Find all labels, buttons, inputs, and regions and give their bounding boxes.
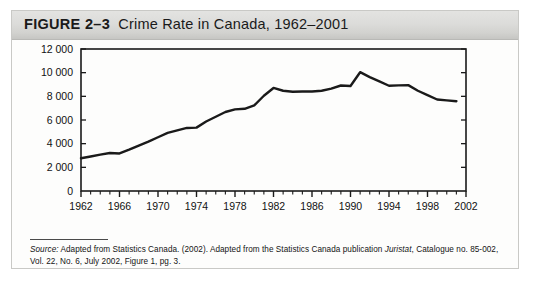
- x-axis-tick-marks: [81, 191, 466, 197]
- svg-text:4 000: 4 000: [47, 137, 73, 149]
- source-body-part1: Adapted from Statistics Canada. (2002). …: [59, 245, 385, 254]
- svg-text:6 000: 6 000: [47, 114, 73, 126]
- crime-rate-series-line: [81, 72, 456, 158]
- source-label: Source:: [30, 245, 59, 254]
- chart-area: 02 0004 0006 0008 00010 00012 000 196219…: [12, 40, 518, 236]
- figure-number-label: FIGURE 2–3: [24, 16, 110, 32]
- svg-text:2002: 2002: [454, 200, 478, 212]
- crime-rate-line-chart: 02 0004 0006 0008 00010 00012 000 196219…: [12, 40, 520, 236]
- figure-header-band: FIGURE 2–3 Crime Rate in Canada, 1962–20…: [12, 11, 518, 40]
- svg-text:1986: 1986: [300, 200, 324, 212]
- figure-caption-label: Crime Rate in Canada, 1962–2001: [118, 16, 348, 32]
- svg-text:1966: 1966: [108, 200, 132, 212]
- source-divider-rule: [30, 239, 108, 240]
- svg-text:1974: 1974: [185, 200, 209, 212]
- source-note: Source: Adapted from Statistics Canada. …: [30, 239, 500, 267]
- svg-text:2 000: 2 000: [47, 161, 73, 173]
- figure-card: FIGURE 2–3 Crime Rate in Canada, 1962–20…: [11, 10, 519, 269]
- x-axis-tick-labels: 1962196619701974197819821986199019941998…: [69, 200, 478, 212]
- svg-text:1990: 1990: [339, 200, 363, 212]
- source-publication-title: Juristat: [385, 245, 412, 254]
- svg-text:1998: 1998: [416, 200, 440, 212]
- svg-text:1962: 1962: [69, 200, 93, 212]
- svg-text:10 000: 10 000: [41, 66, 73, 78]
- source-note-text: Source: Adapted from Statistics Canada. …: [30, 244, 500, 267]
- svg-text:1982: 1982: [262, 200, 286, 212]
- page-title: FIGURE 2–3 Crime Rate in Canada, 1962–20…: [24, 16, 349, 32]
- plot-frame: [81, 49, 466, 191]
- svg-text:0: 0: [67, 185, 73, 197]
- svg-text:1994: 1994: [377, 200, 401, 212]
- y-axis-tick-labels: 02 0004 0006 0008 00010 00012 000: [41, 43, 73, 197]
- svg-text:12 000: 12 000: [41, 43, 73, 55]
- svg-text:8 000: 8 000: [47, 90, 73, 102]
- svg-text:1978: 1978: [223, 200, 247, 212]
- svg-text:1970: 1970: [146, 200, 170, 212]
